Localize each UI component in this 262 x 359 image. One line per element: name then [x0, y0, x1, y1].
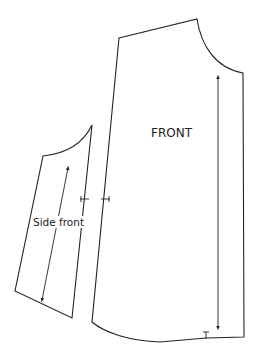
- front-label: FRONT: [151, 126, 192, 140]
- front-piece: [92, 19, 244, 342]
- pattern-diagram: [0, 0, 262, 359]
- side-front-label: Side front: [32, 216, 85, 228]
- front-side-notch: [101, 196, 110, 202]
- front-outline: [92, 19, 244, 342]
- side-front-grainline-arrow: [42, 168, 68, 300]
